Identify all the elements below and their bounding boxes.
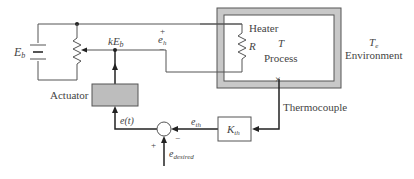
summing-junction	[157, 122, 171, 136]
edesired-label: edesired	[169, 148, 194, 161]
eh-minus-label: −	[159, 44, 164, 54]
eth-label: eth	[191, 116, 201, 129]
environment-label: Environment	[345, 49, 402, 61]
heater-label: Heater	[249, 22, 279, 34]
sum-minus-label: −	[175, 133, 180, 143]
sum-plus-label: +	[151, 140, 156, 150]
thermocouple-arrow	[252, 126, 259, 132]
error-label: e(t)	[120, 115, 135, 127]
environment-temperature-label: Te	[369, 36, 378, 50]
edesired-arrow	[161, 136, 167, 143]
error-arrow	[112, 106, 118, 113]
actuator-block	[92, 84, 138, 106]
thermocouple-probe-icon: ×	[275, 74, 281, 85]
thermocouple-label: Thermocouple	[283, 101, 347, 113]
process-label: Process	[264, 52, 298, 64]
wiper-arrow	[81, 48, 87, 53]
actuator-label: Actuator	[50, 89, 89, 101]
resistor-label: R	[248, 40, 256, 52]
battery-label: Eb	[13, 45, 25, 60]
wiper-label: kEb	[108, 35, 124, 49]
temperature-control-diagram: × Eb kEb + eh − Heater R T Process Te En…	[0, 0, 414, 179]
actuator-output-arrow	[112, 63, 118, 70]
eth-arrow	[171, 126, 178, 132]
process-temperature-label: T	[278, 37, 285, 49]
potentiometer	[73, 38, 81, 68]
